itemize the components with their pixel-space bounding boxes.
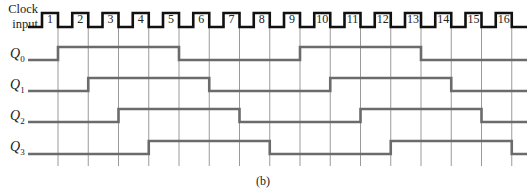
q3-waveform bbox=[28, 141, 527, 154]
waveforms bbox=[0, 0, 531, 190]
q1-waveform bbox=[28, 78, 527, 91]
timing-diagram: Clock input Q0 Q1 Q2 Q3 1234567891011121… bbox=[0, 0, 531, 190]
figure-caption: (b) bbox=[256, 174, 270, 189]
q0-waveform bbox=[28, 47, 527, 60]
q2-waveform bbox=[28, 109, 527, 122]
clock-waveform bbox=[28, 13, 527, 27]
